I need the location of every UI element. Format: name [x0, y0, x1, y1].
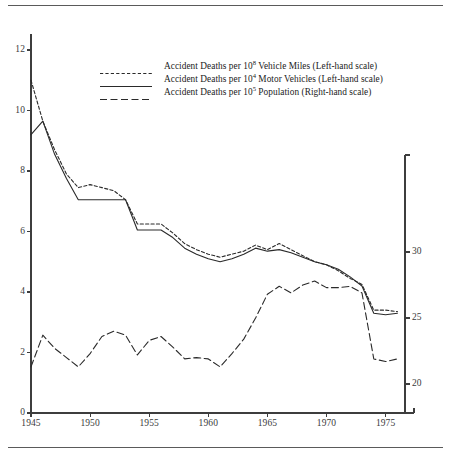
x-axis-label-1955: 1955: [132, 418, 166, 428]
right-axis-label-30: 30: [412, 246, 422, 256]
legend-item-1: Accident Deaths per 104 Motor Vehicles (…: [100, 74, 370, 87]
legend-item-0: Accident Deaths per 108 Vehicle Miles (L…: [100, 61, 370, 74]
legend-label-2: Accident Deaths per 105 Population (Righ…: [164, 87, 371, 97]
x-axis-label-1965: 1965: [250, 418, 284, 428]
legend-label-suffix-2: Population (Right-hand scale): [256, 87, 371, 97]
x-axis-label-1975: 1975: [369, 418, 403, 428]
right-axis-label-20: 20: [412, 378, 422, 388]
left-axis-label-8: 8: [3, 165, 25, 175]
chart-legend: Accident Deaths per 108 Vehicle Miles (L…: [100, 61, 370, 100]
legend-label-suffix-1: Motor Vehicles (Left-hand scale): [256, 74, 383, 84]
legend-label-1: Accident Deaths per 104 Motor Vehicles (…: [164, 74, 383, 84]
series-line-0: [31, 80, 397, 311]
x-axis-label-1945: 1945: [14, 418, 48, 428]
solid-line-key: [100, 80, 152, 81]
x-axis-label-1960: 1960: [191, 418, 225, 428]
left-axis-label-0: 0: [3, 407, 25, 417]
left-axis-label-10: 10: [3, 105, 25, 115]
series-line-1: [31, 121, 397, 315]
dashed-line-key: [100, 93, 152, 94]
legend-label-prefix-1: Accident Deaths per 10: [164, 74, 253, 84]
legend-label-prefix-0: Accident Deaths per 10: [164, 61, 253, 71]
x-axis-label-1950: 1950: [73, 418, 107, 428]
dotted-line-key: [100, 67, 152, 68]
x-axis-label-1970: 1970: [310, 418, 344, 428]
legend-label-suffix-0: Vehicle Miles (Left-hand scale): [256, 61, 377, 71]
figure-container: 0246810122025301945195019551960196519701…: [0, 0, 451, 456]
left-axis-label-6: 6: [3, 226, 25, 236]
legend-label-0: Accident Deaths per 108 Vehicle Miles (L…: [164, 61, 377, 71]
left-axis-label-12: 12: [3, 44, 25, 54]
series-line-2: [31, 281, 397, 367]
left-axis-label-2: 2: [3, 347, 25, 357]
legend-label-prefix-2: Accident Deaths per 10: [164, 87, 253, 97]
series-group: [31, 80, 397, 367]
left-axis-label-4: 4: [3, 286, 25, 296]
right-axis-label-25: 25: [412, 312, 422, 322]
legend-item-2: Accident Deaths per 105 Population (Righ…: [100, 87, 370, 100]
